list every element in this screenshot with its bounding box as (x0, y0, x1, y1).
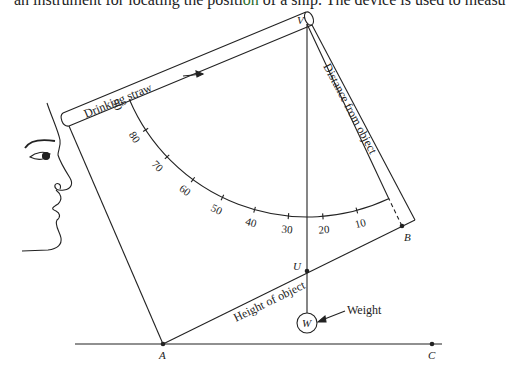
label-V: V (297, 14, 305, 26)
scale-tick (254, 207, 256, 213)
point-A (161, 342, 166, 347)
eyebrow (25, 140, 55, 148)
board-bottom-edge (163, 220, 415, 344)
scale-tick-label: 80 (127, 129, 143, 145)
label-height-of-object: Height of object (231, 278, 308, 325)
point-U (305, 269, 310, 274)
scale-tick-label: 30 (281, 223, 294, 236)
weight-arrow-head (318, 316, 326, 322)
label-B: B (404, 231, 411, 243)
scale-tick-label: 60 (177, 182, 193, 198)
point-B (400, 224, 405, 229)
scale-tick (288, 213, 289, 219)
scale-tick (356, 208, 358, 214)
scale-tick (143, 128, 148, 131)
label-C: C (428, 349, 436, 361)
label-W: W (302, 317, 312, 329)
scale-ticks (143, 128, 357, 219)
label-A: A (158, 349, 166, 361)
scale-tick (191, 177, 195, 182)
inner-line-dashed (388, 197, 402, 226)
pupil (43, 153, 50, 160)
point-C (430, 342, 435, 347)
label-weight: Weight (347, 303, 382, 317)
scale-tick-label: 20 (318, 223, 330, 236)
scale-tick-label: 50 (209, 201, 225, 217)
board-left-edge (69, 126, 163, 344)
scale-tick-label: 10 (353, 216, 367, 231)
scale-tick-labels: 102030405060708090 (110, 97, 368, 236)
label-U: U (293, 260, 302, 272)
label-distance-from-object: Distance from object (320, 61, 380, 157)
scale-tick-label: 40 (244, 215, 258, 230)
scale-tick-label: 70 (150, 158, 167, 175)
